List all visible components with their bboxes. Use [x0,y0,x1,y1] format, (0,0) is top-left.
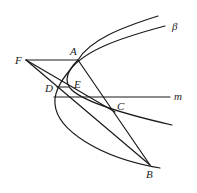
label-m: m [174,90,182,102]
label-B: B [146,168,153,180]
label-E: E [73,78,81,90]
segment-FB [26,60,150,165]
label-A: A [69,45,77,57]
geometry-diagram: F A D E C B m β [0,0,197,193]
label-beta: β [171,20,178,32]
label-F: F [14,54,22,66]
label-D: D [44,82,53,94]
label-C: C [117,100,125,112]
segment-FC [26,60,115,112]
